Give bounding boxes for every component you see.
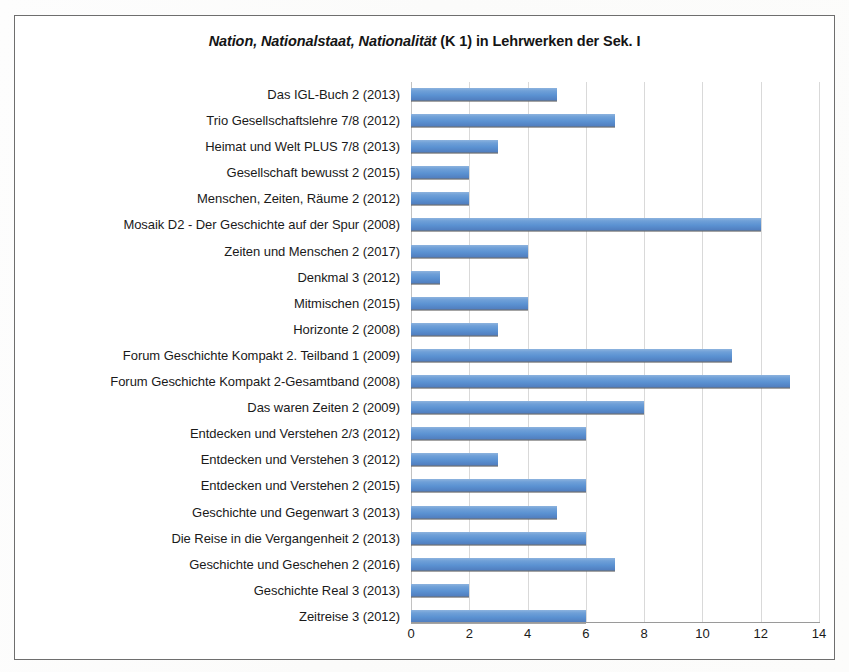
bar[interactable] xyxy=(411,114,615,127)
category-label: Entdecken und Verstehen 2/3 (2012) xyxy=(190,421,400,447)
bar-track xyxy=(411,239,819,265)
category-label: Mosaik D2 - Der Geschichte auf der Spur … xyxy=(123,212,400,238)
chart-title-plain: (K 1) in Lehrwerken der Sek. I xyxy=(436,33,640,49)
category-row: Das waren Zeiten 2 (2009) xyxy=(15,395,406,421)
bar-row xyxy=(411,108,819,134)
bar-track xyxy=(411,552,819,578)
bar-track xyxy=(411,369,819,395)
x-tick-label-10: 10 xyxy=(695,626,709,641)
bar[interactable] xyxy=(411,610,586,623)
bar-track xyxy=(411,212,819,238)
category-label: Zeitreise 3 (2012) xyxy=(299,604,400,630)
bar-row xyxy=(411,395,819,421)
category-row: Entdecken und Verstehen 3 (2012) xyxy=(15,447,406,473)
category-label: Forum Geschichte Kompakt 2. Teilband 1 (… xyxy=(123,343,400,369)
plot-area xyxy=(411,82,819,622)
bar-track xyxy=(411,82,819,108)
chart-frame: Nation, Nationalstaat, Nationalität (K 1… xyxy=(14,15,835,660)
category-row: Forum Geschichte Kompakt 2. Teilband 1 (… xyxy=(15,343,406,369)
bar[interactable] xyxy=(411,506,557,519)
bar-row xyxy=(411,239,819,265)
bar-track xyxy=(411,447,819,473)
bar-row xyxy=(411,447,819,473)
bar-row xyxy=(411,369,819,395)
bar[interactable] xyxy=(411,558,615,571)
bar-series xyxy=(411,82,819,630)
category-row: Denkmal 3 (2012) xyxy=(15,265,406,291)
category-axis: Das IGL-Buch 2 (2013)Trio Gesellschaftsl… xyxy=(15,82,406,622)
gridline-14 xyxy=(819,82,820,622)
x-tick-label-8: 8 xyxy=(641,626,648,641)
category-label: Denkmal 3 (2012) xyxy=(297,265,400,291)
chart-title: Nation, Nationalstaat, Nationalität (K 1… xyxy=(15,33,834,49)
bar[interactable] xyxy=(411,88,557,101)
x-tick-label-0: 0 xyxy=(407,626,414,641)
bar-row xyxy=(411,291,819,317)
category-row: Gesellschaft bewusst 2 (2015) xyxy=(15,160,406,186)
x-tick-label-2: 2 xyxy=(466,626,473,641)
category-row: Das IGL-Buch 2 (2013) xyxy=(15,82,406,108)
bar-track xyxy=(411,343,819,369)
bar-row xyxy=(411,212,819,238)
bar-track xyxy=(411,500,819,526)
category-row: Geschichte und Geschehen 2 (2016) xyxy=(15,552,406,578)
bar[interactable] xyxy=(411,166,469,179)
bar-track xyxy=(411,578,819,604)
bar-row xyxy=(411,578,819,604)
bar[interactable] xyxy=(411,271,440,284)
bar[interactable] xyxy=(411,192,469,205)
x-axis-ticks: 02468101214 xyxy=(411,626,819,650)
category-row: Trio Gesellschaftslehre 7/8 (2012) xyxy=(15,108,406,134)
bar[interactable] xyxy=(411,297,528,310)
bar[interactable] xyxy=(411,245,528,258)
bar-track xyxy=(411,317,819,343)
bar[interactable] xyxy=(411,218,761,231)
bar[interactable] xyxy=(411,584,469,597)
bar-track xyxy=(411,108,819,134)
category-label: Zeiten und Menschen 2 (2017) xyxy=(224,239,400,265)
bar-row xyxy=(411,134,819,160)
bar[interactable] xyxy=(411,401,644,414)
bar-track xyxy=(411,421,819,447)
bar-track xyxy=(411,526,819,552)
category-label: Trio Gesellschaftslehre 7/8 (2012) xyxy=(206,108,400,134)
x-tick-label-6: 6 xyxy=(582,626,589,641)
category-label: Das IGL-Buch 2 (2013) xyxy=(267,82,400,108)
bar-row xyxy=(411,82,819,108)
bar[interactable] xyxy=(411,479,586,492)
category-label: Horizonte 2 (2008) xyxy=(293,317,400,343)
bar[interactable] xyxy=(411,532,586,545)
bar-track xyxy=(411,265,819,291)
bar-track xyxy=(411,291,819,317)
category-row: Geschichte Real 3 (2013) xyxy=(15,578,406,604)
category-label: Gesellschaft bewusst 2 (2015) xyxy=(227,160,400,186)
bar[interactable] xyxy=(411,323,498,336)
plot-wrapper: Das IGL-Buch 2 (2013)Trio Gesellschaftsl… xyxy=(15,82,834,622)
x-axis-line xyxy=(411,622,820,623)
bar[interactable] xyxy=(411,140,498,153)
bar-row xyxy=(411,343,819,369)
category-label: Forum Geschichte Kompakt 2-Gesamtband (2… xyxy=(110,369,400,395)
category-row: Menschen, Zeiten, Räume 2 (2012) xyxy=(15,186,406,212)
category-label: Die Reise in die Vergangenheit 2 (2013) xyxy=(171,526,400,552)
bar[interactable] xyxy=(411,427,586,440)
category-label: Heimat und Welt PLUS 7/8 (2013) xyxy=(205,134,400,160)
bar-row xyxy=(411,500,819,526)
bar-track xyxy=(411,134,819,160)
chart-title-italic: Nation, Nationalstaat, Nationalität xyxy=(209,33,437,49)
category-row: Heimat und Welt PLUS 7/8 (2013) xyxy=(15,134,406,160)
category-label: Entdecken und Verstehen 2 (2015) xyxy=(201,473,400,499)
category-label: Menschen, Zeiten, Räume 2 (2012) xyxy=(197,186,400,212)
bar-row xyxy=(411,552,819,578)
category-row: Zeitreise 3 (2012) xyxy=(15,604,406,630)
category-row: Geschichte und Gegenwart 3 (2013) xyxy=(15,500,406,526)
bar[interactable] xyxy=(411,349,732,362)
bar[interactable] xyxy=(411,375,790,388)
bar[interactable] xyxy=(411,453,498,466)
category-row: Mitmischen (2015) xyxy=(15,291,406,317)
category-row: Zeiten und Menschen 2 (2017) xyxy=(15,239,406,265)
x-tick-label-12: 12 xyxy=(753,626,767,641)
bar-row xyxy=(411,526,819,552)
bar-row xyxy=(411,473,819,499)
category-row: Entdecken und Verstehen 2/3 (2012) xyxy=(15,421,406,447)
